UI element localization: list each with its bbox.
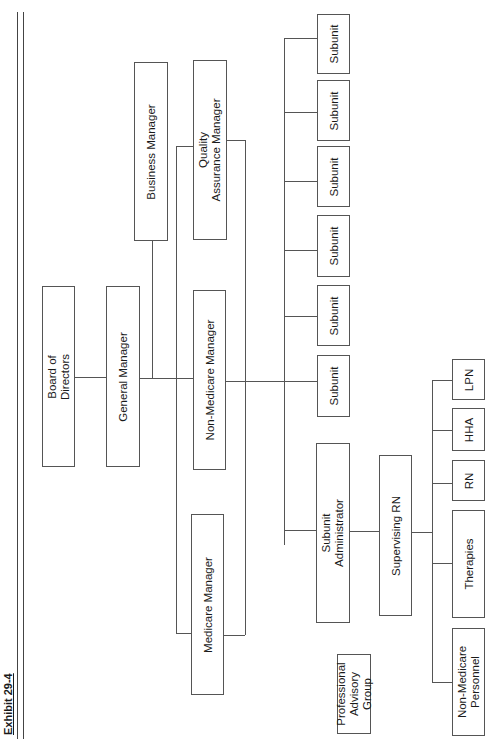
connector (176, 633, 191, 634)
lpn-box: LPN (452, 359, 485, 400)
subunit-box: Subunit (317, 285, 350, 346)
non-medicare-personnel-box: Non-Medicare Personnel (452, 628, 485, 736)
connector (432, 483, 452, 484)
connector (226, 140, 245, 141)
professional-advisory-group-box: Professional Advisory Group (337, 654, 371, 734)
subunit-box: Subunit (317, 146, 350, 207)
subunit-box: Subunit (317, 80, 350, 141)
connector (432, 682, 452, 683)
subunit-administrator-label: Subunit Administrator (320, 499, 346, 567)
board-of-directors-label: Board of Directors (46, 353, 72, 399)
connector (245, 140, 246, 635)
board-of-directors-box: Board of Directors (42, 286, 75, 467)
subunit-label: Subunit (327, 24, 340, 63)
business-manager-label: Business Manager (145, 104, 158, 199)
connector (152, 240, 153, 378)
margin-rule-left (17, 12, 18, 739)
connector (284, 381, 317, 382)
rn-label: RN (462, 472, 475, 489)
connector (432, 380, 433, 682)
connector (284, 250, 317, 251)
subunit-label: Subunit (327, 91, 340, 130)
connector (176, 146, 177, 634)
general-manager-box: General Manager (106, 286, 140, 467)
margin-rule-right (23, 12, 24, 739)
therapies-box: Therapies (452, 510, 485, 618)
connector (411, 532, 432, 533)
connector (176, 146, 193, 147)
professional-advisory-group-label: Professional Advisory Group (335, 662, 374, 725)
connector (139, 378, 193, 379)
lpn-label: LPN (462, 368, 475, 390)
business-manager-box: Business Manager (134, 62, 168, 241)
exhibit-title: Exhibit 29-4 (2, 655, 16, 735)
subunit-box: Subunit (317, 355, 350, 417)
supervising-rn-label: Supervising RN (389, 496, 402, 576)
medicare-manager-label: Medicare Manager (201, 557, 214, 653)
hha-box: HHA (452, 408, 485, 451)
subunit-box: Subunit (317, 14, 350, 74)
subunit-box: Subunit (317, 215, 350, 277)
connector (223, 635, 245, 636)
therapies-label: Therapies (462, 538, 475, 589)
non-medicare-manager-box: Non-Medicare Manager (193, 290, 226, 470)
subunit-administrator-box: Subunit Administrator (316, 443, 350, 623)
medicare-manager-box: Medicare Manager (191, 514, 224, 695)
connector (284, 38, 317, 39)
quality-assurance-manager-box: Quality Assurance Manager (193, 60, 227, 240)
non-medicare-personnel-label: Non-Medicare Personnel (456, 646, 482, 718)
general-manager-label: General Manager (117, 332, 130, 422)
connector (284, 112, 317, 113)
connector (349, 531, 379, 532)
subunit-label: Subunit (327, 157, 340, 196)
connector (284, 530, 316, 531)
connector (284, 181, 317, 182)
subunit-label: Subunit (327, 226, 340, 265)
connector (225, 381, 284, 382)
connector (432, 430, 452, 431)
connector (432, 380, 452, 381)
quality-assurance-manager-label: Quality Assurance Manager (197, 99, 223, 202)
connector (284, 38, 285, 545)
non-medicare-manager-label: Non-Medicare Manager (203, 320, 216, 441)
connector (284, 316, 317, 317)
subunit-label: Subunit (327, 296, 340, 335)
rn-box: RN (452, 460, 485, 501)
connector (74, 377, 106, 378)
subunit-label: Subunit (327, 366, 340, 405)
connector (432, 563, 452, 564)
supervising-rn-box: Supervising RN (379, 455, 412, 616)
hha-label: HHA (462, 417, 475, 441)
